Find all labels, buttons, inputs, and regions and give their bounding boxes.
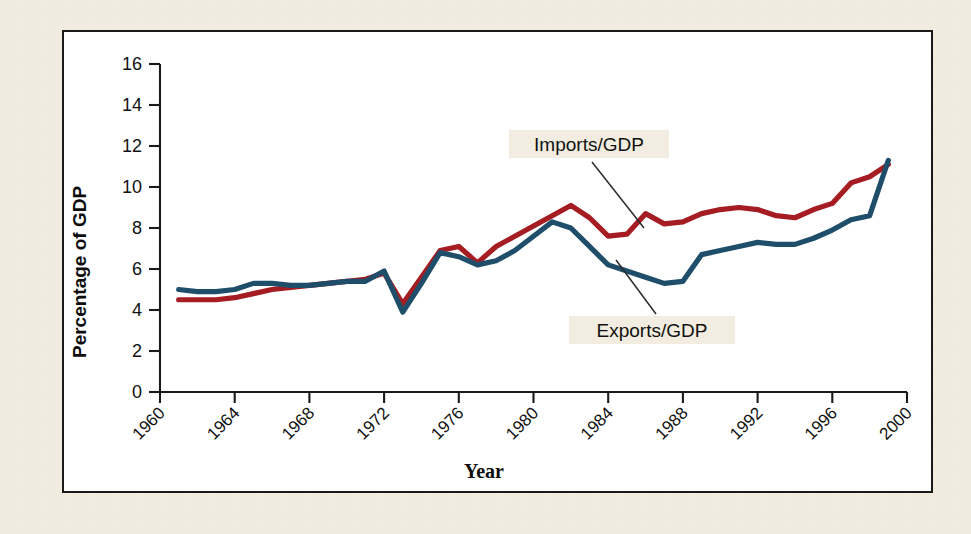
x-axis-tick-label: 1980: [502, 403, 542, 443]
x-axis-tick-label: 1988: [652, 403, 692, 443]
annotation-leader-line: [616, 260, 656, 314]
x-axis-tick-label: 1960: [129, 403, 169, 443]
y-axis-tick-label: 4: [132, 300, 142, 320]
x-axis-tick-label: 1996: [801, 403, 841, 443]
line-chart-plot: 0246810121416 19601964196819721976198019…: [64, 32, 931, 491]
y-axis-tick-label: 6: [132, 259, 142, 279]
x-axis-title: Year: [464, 460, 504, 482]
y-axis-tick-label: 8: [132, 218, 142, 238]
y-axis-tick-label: 2: [132, 341, 142, 361]
y-axis-title: Percentage of GDP: [69, 186, 90, 358]
annotation-label-imports-gdp: Imports/GDP: [534, 134, 644, 155]
data-series-group: [179, 160, 889, 312]
x-axis-tick-label: 1984: [577, 403, 617, 443]
chart-frame: 0246810121416 19601964196819721976198019…: [62, 30, 933, 493]
x-axis-ticks: 1960196419681972197619801984198819921996…: [129, 392, 916, 444]
annotation-label-exports-gdp: Exports/GDP: [597, 320, 708, 341]
y-axis-ticks: 0246810121416: [122, 54, 160, 402]
x-axis-tick-label: 1972: [353, 403, 393, 443]
x-axis-tick-label: 1968: [278, 403, 318, 443]
y-axis-tick-label: 0: [132, 382, 142, 402]
x-axis-tick-label: 1976: [427, 403, 467, 443]
y-axis-tick-label: 12: [122, 136, 142, 156]
x-axis-tick-label: 1992: [726, 403, 766, 443]
y-axis-tick-label: 10: [122, 177, 142, 197]
y-axis-tick-label: 14: [122, 95, 142, 115]
x-axis-tick-label: 1964: [203, 403, 243, 443]
y-axis-tick-label: 16: [122, 54, 142, 74]
x-axis-tick-label: 2000: [876, 403, 916, 443]
annotation-leader-line: [592, 162, 644, 228]
